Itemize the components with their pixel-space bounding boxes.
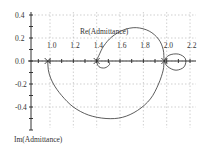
y-tick-label: 0.4 bbox=[15, 11, 25, 20]
y-tick-label: -0.2 bbox=[15, 80, 27, 89]
y-tick-label: -0.4 bbox=[15, 103, 27, 112]
admittance-chart: 1.01.21.41.61.82.02.20.40.20.0-0.2-0.4 R… bbox=[0, 0, 205, 147]
x-axis-title: Re(Admittance) bbox=[80, 27, 129, 36]
x-tick-label: 2.2 bbox=[187, 41, 197, 50]
x-tick-label: 1.2 bbox=[70, 41, 80, 50]
y-tick-label: 0.2 bbox=[15, 34, 25, 43]
y-axis-title: Im(Admittance) bbox=[14, 135, 63, 144]
y-tick-label: 0.0 bbox=[15, 57, 25, 66]
x-tick-label: 1.6 bbox=[117, 41, 127, 50]
x-tick-label: 1.8 bbox=[140, 41, 150, 50]
x-tick-label: 1.0 bbox=[47, 41, 57, 50]
x-tick-label: 2.0 bbox=[164, 41, 174, 50]
